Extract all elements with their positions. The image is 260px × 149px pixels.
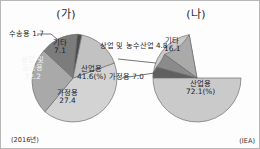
pie-a-label-commercial-value: 22.2 (21, 73, 44, 81)
panel-b-note: (IEA) (239, 137, 255, 145)
pie-a-label-transport-name: 수송용 (9, 29, 30, 38)
pie-a-label-commercial: 상업 및 공공용 22.2 (21, 56, 44, 81)
pie-a-label-transport: 수송용 1.7 (9, 30, 44, 38)
pie-panel-b: (나) 산업용 72.1(%) 기타 16.1 상업 및 농수산업 (131, 1, 260, 149)
pie-b-label-household-value: 7.0 (132, 72, 143, 81)
pie-a-label-industrial-value: 41.6(%) (77, 73, 106, 81)
pie-b-label-household-name: 가정용 (109, 72, 130, 81)
figure-container: (가) 산업용 41.6(%) 가정용 27.4 (0, 0, 260, 149)
pie-b-label-commercial: 상업 및 농수산업 4.8 (100, 42, 167, 50)
pie-a-label-other: 기타 7.1 (53, 39, 67, 56)
pie-a-label-industrial: 산업용 41.6(%) (77, 65, 106, 82)
pie-b-label-commercial-value: 4.8 (156, 41, 167, 50)
pie-b-label-household: 가정용 7.0 (109, 73, 144, 81)
pie-b-label-commercial-name1: 상업 및 (100, 41, 123, 50)
pie-a-label-other-value: 7.1 (53, 47, 67, 55)
panel-b-title: (나) (131, 5, 260, 21)
pie-b-label-commercial-name2: 농수산업 (126, 41, 154, 50)
pie-b-label-industrial: 산업용 72.1(%) (186, 80, 215, 97)
pie-b-label-industrial-value: 72.1(%) (186, 88, 215, 96)
pie-a-label-transport-value: 1.7 (32, 29, 43, 38)
pie-a-label-household-value: 27.4 (57, 97, 78, 105)
panel-a-note: (2016년) (11, 134, 39, 144)
pie-a-label-household: 가정용 27.4 (57, 89, 78, 106)
panel-a-title: (가) (1, 5, 131, 21)
